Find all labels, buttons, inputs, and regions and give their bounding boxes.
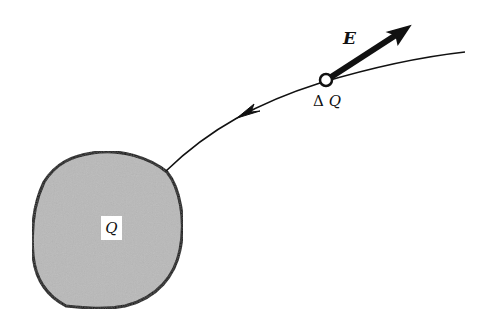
field-line — [166, 52, 465, 171]
field-vector-label: E — [343, 30, 356, 47]
source-charge-symbol: Q — [105, 221, 117, 236]
test-charge-label: Δ Q — [313, 94, 341, 109]
field-line-arrowhead-icon — [237, 104, 260, 118]
test-charge-marker — [320, 74, 332, 86]
delta-symbol: Δ — [313, 92, 324, 110]
test-charge-symbol: Q — [329, 92, 341, 110]
field-vector-shaft — [328, 35, 396, 79]
source-charge-label: Q — [101, 216, 122, 240]
field-diagram — [0, 0, 496, 331]
